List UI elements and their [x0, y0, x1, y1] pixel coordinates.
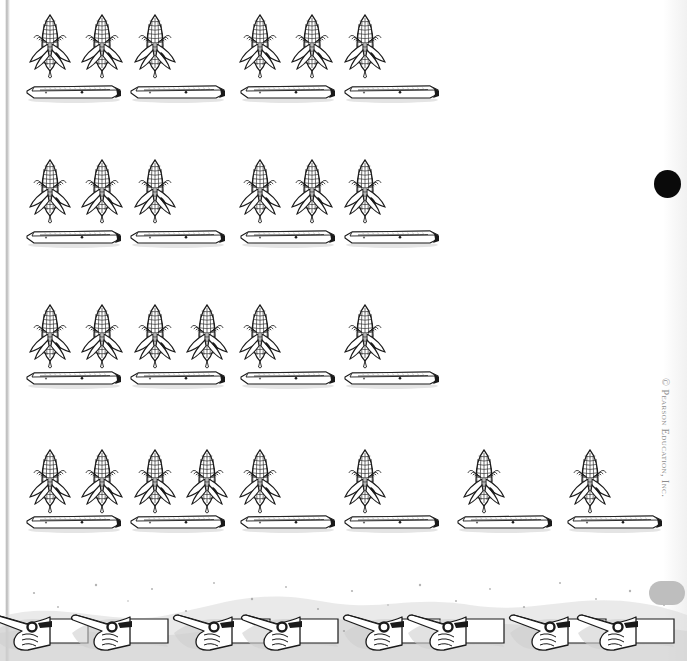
- corn-cob-icon: [343, 447, 387, 515]
- tray-icon: [128, 227, 228, 249]
- tray-item: [24, 368, 124, 390]
- worksheet-page: © Pearson Education, Inc.: [0, 0, 687, 661]
- tray-item: [128, 368, 228, 390]
- corn-group: [0, 157, 687, 227]
- corn-item: [133, 447, 177, 515]
- corn-item: [28, 302, 72, 370]
- corn-item: [28, 447, 72, 515]
- corn-cob-icon: [343, 157, 387, 225]
- tray-group: [0, 82, 687, 106]
- corn-group: [0, 302, 687, 372]
- tray-item: [342, 512, 442, 534]
- tray-item: [342, 368, 442, 390]
- tray-icon: [342, 227, 442, 249]
- corn-cob-icon: [133, 447, 177, 515]
- corn-item: [568, 447, 612, 515]
- corn-cob-icon: [185, 447, 229, 515]
- corn-cob-icon: [290, 157, 334, 225]
- corn-item: [238, 157, 282, 225]
- tray-icon: [238, 368, 338, 390]
- corn-row: [0, 12, 687, 106]
- hand-item: [238, 593, 342, 659]
- corn-cob-icon: [185, 302, 229, 370]
- hand-item: [68, 593, 172, 659]
- tray-icon: [342, 82, 442, 104]
- corn-item: [133, 157, 177, 225]
- corn-cob-icon: [238, 447, 282, 515]
- tray-icon: [238, 227, 338, 249]
- tray-item: [128, 512, 228, 534]
- corn-cob-icon: [343, 12, 387, 80]
- corn-cob-icon: [80, 157, 124, 225]
- corn-item: [133, 12, 177, 80]
- tray-group: [0, 512, 687, 536]
- corn-cob-icon: [133, 157, 177, 225]
- corn-group: [0, 447, 687, 517]
- corn-cob-icon: [133, 302, 177, 370]
- pointing-hand-icon: [238, 593, 342, 659]
- corn-item: [80, 447, 124, 515]
- corn-item: [238, 447, 282, 515]
- corn-cob-icon: [343, 302, 387, 370]
- corn-item: [462, 447, 506, 515]
- corn-cob-icon: [80, 12, 124, 80]
- pointing-hand-icon: [404, 593, 508, 659]
- corn-item: [343, 302, 387, 370]
- corn-cob-icon: [28, 157, 72, 225]
- tray-icon: [128, 368, 228, 390]
- corn-row: [0, 447, 687, 536]
- corn-row: [0, 302, 687, 392]
- tray-icon: [24, 82, 124, 104]
- tray-icon: [342, 368, 442, 390]
- tray-item: [342, 227, 442, 249]
- tray-item: [238, 512, 338, 534]
- corn-cob-icon: [238, 157, 282, 225]
- corn-cob-icon: [28, 447, 72, 515]
- corn-cob-icon: [133, 12, 177, 80]
- corn-cob-icon: [28, 302, 72, 370]
- tray-icon: [128, 82, 228, 104]
- tray-item: [238, 368, 338, 390]
- corn-item: [133, 302, 177, 370]
- corn-cob-icon: [80, 447, 124, 515]
- tray-item: [24, 82, 124, 104]
- corn-item: [290, 157, 334, 225]
- tray-icon: [455, 512, 555, 534]
- tray-icon: [565, 512, 665, 534]
- tray-item: [238, 227, 338, 249]
- tray-item: [128, 227, 228, 249]
- corn-cob-icon: [80, 302, 124, 370]
- tray-item: [342, 82, 442, 104]
- corn-cob-icon: [568, 447, 612, 515]
- corn-item: [290, 12, 334, 80]
- corn-item: [80, 12, 124, 80]
- tray-icon: [238, 512, 338, 534]
- tray-item: [24, 512, 124, 534]
- corn-item: [238, 302, 282, 370]
- gray-blob-marker: [649, 581, 685, 605]
- hand-item: [404, 593, 508, 659]
- corn-item: [343, 12, 387, 80]
- corn-item: [80, 157, 124, 225]
- tray-icon: [24, 512, 124, 534]
- corn-item: [185, 302, 229, 370]
- tray-group: [0, 368, 687, 392]
- corn-cob-icon: [238, 302, 282, 370]
- corn-cob-icon: [28, 12, 72, 80]
- corn-item: [28, 157, 72, 225]
- tray-icon: [342, 512, 442, 534]
- tray-icon: [238, 82, 338, 104]
- tray-group: [0, 227, 687, 251]
- decorative-hand-border: [0, 571, 687, 661]
- corn-item: [343, 157, 387, 225]
- tray-icon: [128, 512, 228, 534]
- tray-item: [455, 512, 555, 534]
- tray-icon: [24, 227, 124, 249]
- corn-cob-icon: [462, 447, 506, 515]
- corn-cob-icon: [290, 12, 334, 80]
- corn-item: [80, 302, 124, 370]
- tray-item: [238, 82, 338, 104]
- tray-item: [565, 512, 665, 534]
- corn-item: [185, 447, 229, 515]
- corn-item: [343, 447, 387, 515]
